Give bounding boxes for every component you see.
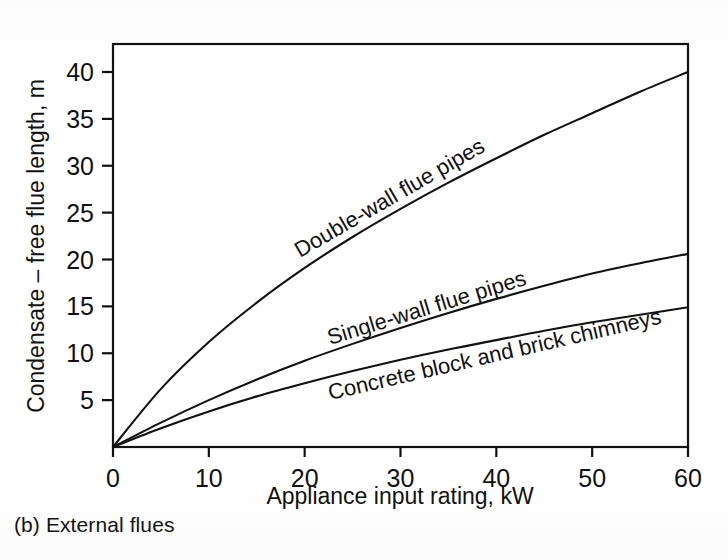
y-axis-tick-labels: 510152025303540 [66,58,94,414]
figure-external-flues: 0102030405060 510152025303540 Double-wal… [0,0,728,560]
y-tick-label: 35 [66,105,94,133]
y-tick-label: 5 [80,386,94,414]
x-axis-title: Appliance input rating, kW [266,483,533,509]
x-tick-label: 60 [674,464,702,492]
condensate-free-flue-length-chart: 0102030405060 510152025303540 Double-wal… [0,0,728,560]
x-tick-label: 0 [106,464,120,492]
series-line-0 [113,72,688,447]
y-axis-ticks [102,72,113,400]
series-label-0: Double-wall flue pipes [290,133,489,262]
x-tick-label: 10 [195,464,223,492]
x-tick-label: 50 [578,464,606,492]
y-axis-title: Condensate – free flue length, m [23,79,49,413]
y-tick-label: 25 [66,199,94,227]
y-tick-label: 10 [66,339,94,367]
y-tick-label: 20 [66,246,94,274]
x-axis-ticks [113,447,688,457]
y-tick-label: 15 [66,292,94,320]
y-tick-label: 30 [66,152,94,180]
data-series-lines [113,72,688,447]
y-tick-label: 40 [66,58,94,86]
series-label-1: Single-wall flue pipes [324,265,529,349]
data-series-labels: Double-wall flue pipesSingle-wall flue p… [290,133,664,405]
figure-caption: (b) External flues [14,513,175,537]
